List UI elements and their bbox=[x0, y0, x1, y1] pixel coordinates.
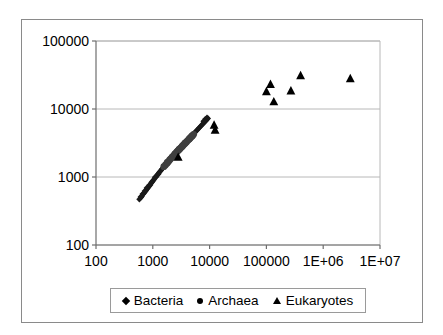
x-tick-label: 1E+07 bbox=[345, 254, 415, 268]
circle-marker-icon bbox=[197, 298, 203, 304]
diamond-marker-icon bbox=[122, 296, 130, 304]
scatter-plot-canvas bbox=[0, 0, 443, 335]
legend-label-archaea: Archaea bbox=[208, 294, 258, 308]
legend-item-archaea[interactable]: Archaea bbox=[197, 294, 258, 308]
legend-item-eukaryotes[interactable]: Eukaryotes bbox=[273, 294, 354, 308]
series-archaea-points bbox=[160, 131, 197, 170]
legend-item-bacteria[interactable]: Bacteria bbox=[123, 294, 184, 308]
triangle-marker-icon bbox=[273, 297, 281, 304]
y-tick-label: 100000 bbox=[20, 34, 89, 48]
y-tick-label: 1000 bbox=[20, 170, 89, 184]
figure: 100100010000100000 1001000100001000001E+… bbox=[0, 0, 443, 335]
y-tick-label: 100 bbox=[20, 238, 89, 252]
y-tick-label: 10000 bbox=[20, 102, 89, 116]
legend-label-bacteria: Bacteria bbox=[134, 294, 184, 308]
legend-label-eukaryotes: Eukaryotes bbox=[286, 294, 354, 308]
axis-ticks bbox=[92, 41, 380, 249]
gridlines bbox=[96, 41, 380, 245]
series-eukaryotes-points bbox=[174, 71, 355, 161]
plot-frame bbox=[96, 41, 380, 245]
chart-legend: Bacteria Archaea Eukaryotes bbox=[110, 288, 366, 313]
